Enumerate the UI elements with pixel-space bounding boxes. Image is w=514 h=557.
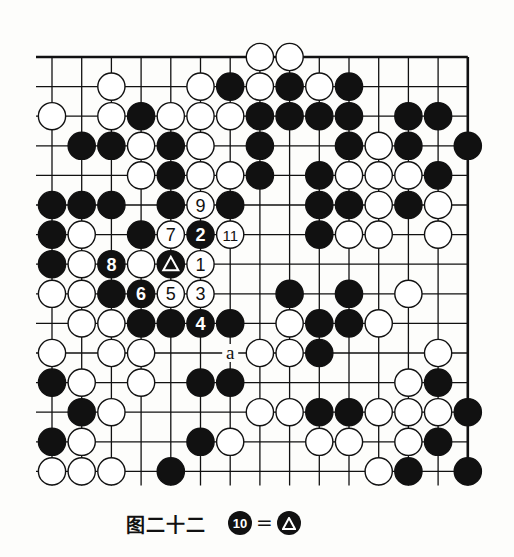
black-stone (246, 162, 273, 189)
white-stone (395, 428, 422, 455)
black-stone (335, 103, 362, 130)
white-stone (276, 310, 303, 337)
white-stone (217, 103, 244, 130)
black-stone (38, 428, 65, 455)
black-stone (68, 132, 95, 159)
white-stone-move-3: 3 (187, 280, 214, 307)
black-stone (306, 103, 333, 130)
white-stone (395, 369, 422, 396)
black-stone (306, 221, 333, 248)
black-stone (395, 191, 422, 218)
black-stone (98, 132, 125, 159)
move-number-label: 11 (222, 227, 238, 244)
point-label-a: a (226, 342, 235, 363)
white-stone (68, 458, 95, 485)
white-stone (395, 399, 422, 426)
black-stone-move-6: 6 (128, 280, 155, 307)
white-stone-move-7: 7 (157, 221, 184, 248)
white-stone (395, 280, 422, 307)
black-stone (306, 310, 333, 337)
white-stone (365, 132, 392, 159)
move-number-label: 9 (195, 196, 205, 216)
black-stone (38, 369, 65, 396)
black-stone (157, 458, 184, 485)
white-stone (335, 221, 362, 248)
black-stone (454, 458, 481, 485)
white-stone (38, 280, 65, 307)
move-number-label: 5 (166, 284, 176, 304)
white-stone-move-1: 1 (187, 251, 214, 278)
black-stone (217, 369, 244, 396)
black-stone (335, 280, 362, 307)
white-stone (335, 162, 362, 189)
black-stone (128, 310, 155, 337)
white-stone (306, 428, 333, 455)
black-stone (395, 132, 422, 159)
black-stone (395, 103, 422, 130)
white-stone (98, 399, 125, 426)
move-10-black-badge: 10 (228, 511, 252, 535)
black-stone (306, 399, 333, 426)
white-stone (365, 221, 392, 248)
black-stone (217, 191, 244, 218)
black-stone-move-8: 8 (98, 251, 125, 278)
white-stone (68, 221, 95, 248)
white-stone (187, 73, 214, 100)
black-stone (38, 251, 65, 278)
white-stone (395, 162, 422, 189)
white-stone (38, 458, 65, 485)
black-stone (335, 310, 362, 337)
black-stone (217, 310, 244, 337)
move-equivalence-note: 10 = (228, 511, 301, 535)
move-number-label: 6 (136, 284, 146, 304)
black-stone (157, 191, 184, 218)
white-stone-move-11: 11 (217, 221, 244, 248)
white-stone (335, 428, 362, 455)
white-stone (217, 162, 244, 189)
white-stone (68, 280, 95, 307)
black-stone (425, 369, 452, 396)
black-stone (187, 369, 214, 396)
black-stone (276, 103, 303, 130)
white-stone (98, 339, 125, 366)
white-stone (365, 399, 392, 426)
white-stone (365, 458, 392, 485)
white-stone (157, 103, 184, 130)
white-stone (187, 162, 214, 189)
white-stone (68, 251, 95, 278)
white-stone (217, 428, 244, 455)
black-stone (306, 191, 333, 218)
black-stone (157, 132, 184, 159)
black-stone (246, 103, 273, 130)
equals-sign: = (256, 511, 273, 535)
white-stone (38, 339, 65, 366)
move-number-label: 3 (195, 284, 205, 304)
black-stone (38, 191, 65, 218)
move-number-label: 7 (166, 225, 176, 245)
white-stone (98, 458, 125, 485)
black-stone (276, 73, 303, 100)
white-stone (276, 43, 303, 70)
black-stone (128, 221, 155, 248)
black-stone (335, 399, 362, 426)
move-number-label: 2 (195, 225, 205, 245)
black-stone (187, 428, 214, 455)
black-stone (157, 162, 184, 189)
black-stone (425, 103, 452, 130)
black-stone (425, 162, 452, 189)
black-stone (395, 458, 422, 485)
white-stone (276, 339, 303, 366)
white-stone (425, 221, 452, 248)
black-stone (38, 221, 65, 248)
black-stone (335, 132, 362, 159)
white-stone (425, 399, 452, 426)
move-number-label: 8 (106, 255, 116, 275)
white-stone (68, 428, 95, 455)
white-stone (306, 73, 333, 100)
black-stone (454, 399, 481, 426)
white-stone (246, 399, 273, 426)
white-stone (128, 369, 155, 396)
move-number-label: 4 (195, 314, 205, 334)
white-stone (98, 310, 125, 337)
white-stone (128, 132, 155, 159)
